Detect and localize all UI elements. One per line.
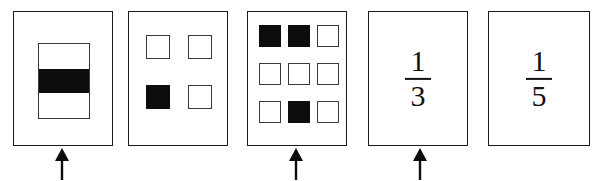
grid-cell: [317, 63, 339, 85]
fraction-numerator: 1: [526, 45, 553, 76]
square-grid-2x2: [146, 35, 212, 109]
grid-cell: [188, 35, 212, 59]
fraction-denominator: 3: [405, 81, 432, 112]
fraction-display: 1 5: [489, 45, 589, 111]
square-grid-3x3: [259, 25, 339, 123]
grid-cell-shaded: [288, 25, 310, 47]
grid-cell: [146, 35, 170, 59]
panel-fraction-one-fifth[interactable]: 1 5: [488, 11, 590, 146]
grid-cell-shaded: [259, 25, 281, 47]
grid-cell: [259, 63, 281, 85]
grid-cell: [288, 63, 310, 85]
grid-cell: [259, 101, 281, 123]
fraction-denominator: 5: [526, 81, 553, 112]
bar-model-thirds: [38, 43, 90, 119]
figure-canvas: 1 3 1 5: [0, 0, 601, 181]
grid-cell: [317, 101, 339, 123]
grid-cell: [188, 85, 212, 109]
grid-cell-shaded: [288, 101, 310, 123]
panel-grid-3x3[interactable]: [247, 11, 347, 146]
up-arrow-icon: [54, 148, 70, 180]
fraction-numerator: 1: [405, 45, 432, 76]
grid-cell-shaded: [146, 85, 170, 109]
bar-band-3: [39, 93, 89, 118]
up-arrow-icon: [288, 148, 304, 180]
bar-band-1: [39, 44, 89, 69]
up-arrow-icon: [412, 148, 428, 180]
panel-grid-2x2[interactable]: [128, 11, 228, 146]
panel-bar-model[interactable]: [13, 11, 113, 146]
panel-fraction-one-third[interactable]: 1 3: [368, 11, 468, 146]
grid-cell: [317, 25, 339, 47]
bar-band-2-shaded: [39, 69, 89, 94]
fraction-display: 1 3: [369, 45, 467, 111]
